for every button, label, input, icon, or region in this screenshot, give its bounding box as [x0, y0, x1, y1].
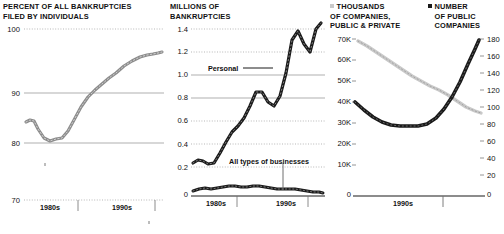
x-axis-label-1980s: 1980s: [206, 199, 226, 208]
y-axis-right-ticks: [480, 39, 484, 175]
chart-panel-millions-bankruptcies: MILLIONS OF BANKRUPTCIES 1.4 1.2 1.0 0.8…: [168, 0, 325, 234]
chart-plot-companies: [325, 0, 504, 234]
series-line-personal: [193, 23, 321, 164]
series-line-all-businesses: [193, 186, 323, 193]
scan-speck: [148, 221, 150, 224]
chart-panel-companies: THOUSANDS OF COMPANIES, PUBLIC & PRIVATE…: [325, 0, 504, 234]
x-axis-label-1990s: 1990s: [276, 199, 296, 208]
x-axis-label-1990s: 1990s: [393, 199, 413, 208]
x-axis-label-1980s: 1980s: [40, 203, 60, 212]
x-axis-label-1990s: 1990s: [112, 203, 132, 212]
annotation-all-businesses: All types of businesses: [229, 157, 309, 166]
chart-panel-percent-individuals: PERCENT OF ALL BANKRUPTCIES FILED BY IND…: [0, 0, 168, 234]
chart-plot-millions-bankruptcies: [168, 0, 325, 234]
series-line-percent-individuals: [26, 52, 162, 141]
chart-plot-percent-individuals: [0, 0, 168, 234]
scan-speck: [44, 163, 46, 166]
series-line-public-companies: [355, 40, 479, 126]
annotation-personal: Personal: [208, 64, 238, 73]
series-line-percent-individuals-texture: [26, 52, 162, 141]
